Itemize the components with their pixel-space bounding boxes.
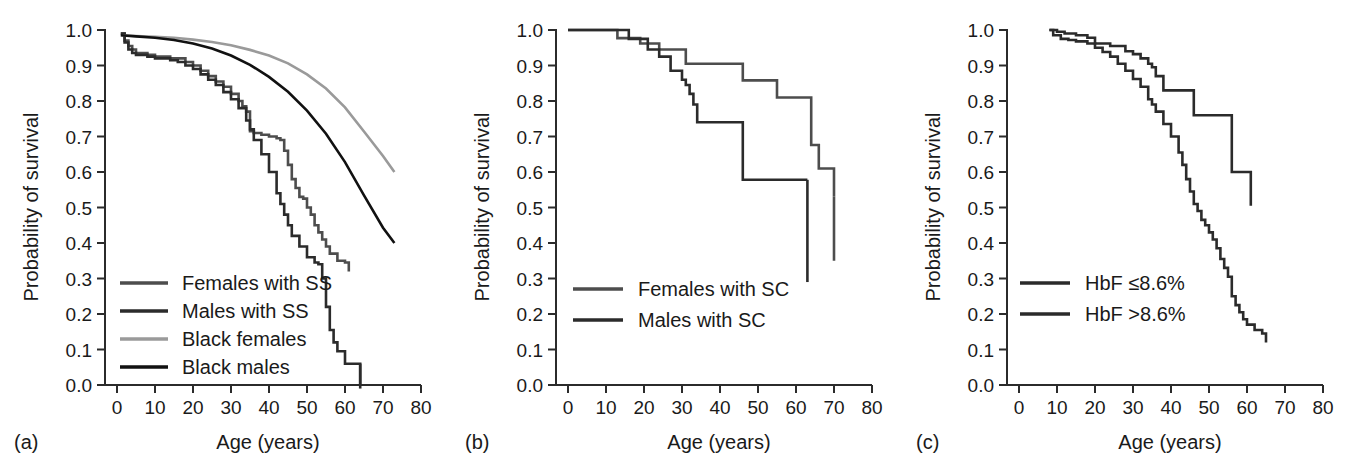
panel-a-plot: 0.0 0.1 0.2 0.3 0.4 0.5 0.6 0.7 0.8 0.9 …	[0, 0, 451, 475]
y-tick-label: 0.0	[66, 375, 92, 396]
panel-label-a: (a)	[14, 431, 38, 453]
legend-label-males-ss: Males with SS	[182, 300, 309, 322]
panel-c-plot: 0.0 0.1 0.2 0.3 0.4 0.5 0.6 0.7 0.8 0.9 …	[902, 0, 1354, 475]
y-tick-label: 0.0	[517, 375, 543, 396]
y-tick-label: 0.2	[968, 304, 994, 325]
y-axis-title: Probability of survival	[922, 113, 944, 302]
x-tick-label: 40	[709, 397, 730, 418]
y-tick-label: 0.5	[66, 198, 92, 219]
y-tick-label: 0.1	[66, 340, 92, 361]
panel-a: 0.0 0.1 0.2 0.3 0.4 0.5 0.6 0.7 0.8 0.9 …	[0, 0, 451, 475]
y-ticks	[999, 30, 1007, 385]
legend-label-males-sc: Males with SC	[638, 309, 766, 331]
y-tick-label: 0.6	[66, 162, 92, 183]
curve-males-with-sc	[568, 30, 807, 180]
y-ticks	[97, 30, 105, 385]
y-tick-label: 0.7	[66, 127, 92, 148]
x-tick-label: 10	[144, 397, 165, 418]
y-tick-label: 0.9	[517, 56, 543, 77]
y-tick-label: 0.4	[66, 233, 93, 254]
y-tick-label: 0.1	[968, 340, 994, 361]
y-tick-label: 0.7	[517, 127, 543, 148]
legend-label-females-sc: Females with SC	[638, 278, 789, 300]
x-tick-label: 60	[1236, 397, 1257, 418]
x-tick-label: 30	[220, 397, 241, 418]
y-tick-labels: 0.0 0.1 0.2 0.3 0.4 0.5 0.6 0.7 0.8 0.9 …	[968, 20, 995, 396]
x-tick-label: 70	[372, 397, 393, 418]
x-tick-label: 20	[633, 397, 654, 418]
y-tick-label: 0.4	[968, 233, 995, 254]
legend-label-black-females: Black females	[182, 328, 307, 350]
y-tick-label: 0.6	[517, 162, 543, 183]
y-tick-label: 0.8	[517, 91, 543, 112]
curve-females-with-ss	[121, 34, 349, 272]
x-tick-label: 0	[112, 397, 123, 418]
x-axis-title: Age (years)	[1118, 431, 1221, 453]
panel-b-curves	[568, 30, 834, 282]
x-tick-label: 10	[1046, 397, 1067, 418]
y-tick-label: 0.3	[66, 269, 92, 290]
y-ticks	[548, 30, 556, 385]
x-tick-labels: 0 10 20 30 40 50 60 70 80	[563, 397, 883, 418]
x-tick-label: 20	[182, 397, 203, 418]
curve-hbf-8-6	[1049, 30, 1250, 206]
y-tick-label: 0.8	[66, 91, 92, 112]
panel-b-plot: 0.0 0.1 0.2 0.3 0.4 0.5 0.6 0.7 0.8 0.9 …	[451, 0, 902, 475]
y-tick-label: 0.7	[968, 127, 994, 148]
x-tick-label: 70	[823, 397, 844, 418]
x-tick-label: 30	[1122, 397, 1143, 418]
x-tick-label: 80	[861, 397, 882, 418]
y-tick-label: 1.0	[968, 20, 994, 41]
x-tick-label: 70	[1274, 397, 1295, 418]
y-tick-label: 0.3	[517, 269, 543, 290]
x-tick-label: 80	[410, 397, 431, 418]
x-ticks	[568, 385, 872, 393]
panel-c-legend: HbF ≤8.6% HbF >8.6%	[1020, 272, 1186, 325]
x-tick-labels: 0 10 20 30 40 50 60 70 80	[1014, 397, 1334, 418]
panel-c: 0.0 0.1 0.2 0.3 0.4 0.5 0.6 0.7 0.8 0.9 …	[902, 0, 1353, 475]
panel-a-legend: Females with SS Males with SS Black fema…	[120, 272, 332, 378]
panel-b: 0.0 0.1 0.2 0.3 0.4 0.5 0.6 0.7 0.8 0.9 …	[451, 0, 902, 475]
y-axis-title: Probability of survival	[471, 113, 493, 302]
y-tick-label: 0.5	[968, 198, 994, 219]
x-tick-label: 50	[747, 397, 768, 418]
x-tick-label: 40	[258, 397, 279, 418]
x-tick-label: 80	[1312, 397, 1333, 418]
y-tick-label: 0.3	[968, 269, 994, 290]
x-tick-label: 40	[1160, 397, 1181, 418]
y-tick-labels: 0.0 0.1 0.2 0.3 0.4 0.5 0.6 0.7 0.8 0.9 …	[66, 20, 93, 396]
x-ticks	[1019, 385, 1323, 393]
y-tick-label: 0.2	[517, 304, 543, 325]
panel-label-c: (c)	[916, 431, 939, 453]
y-tick-label: 0.8	[968, 91, 994, 112]
y-tick-labels: 0.0 0.1 0.2 0.3 0.4 0.5 0.6 0.7 0.8 0.9 …	[517, 20, 544, 396]
y-tick-label: 0.0	[968, 375, 994, 396]
y-axis-title: Probability of survival	[20, 113, 42, 302]
y-tick-label: 0.1	[517, 340, 543, 361]
panel-c-curves	[1049, 30, 1266, 342]
x-tick-label: 50	[1198, 397, 1219, 418]
x-tick-label: 60	[785, 397, 806, 418]
x-axis-title: Age (years)	[216, 431, 319, 453]
legend-label-females-ss: Females with SS	[182, 272, 332, 294]
survival-curves-figure: 0.0 0.1 0.2 0.3 0.4 0.5 0.6 0.7 0.8 0.9 …	[0, 0, 1354, 475]
x-tick-label: 30	[671, 397, 692, 418]
panel-b-legend: Females with SC Males with SC	[573, 278, 789, 331]
x-tick-label: 60	[334, 397, 355, 418]
x-ticks	[117, 385, 421, 393]
y-tick-label: 0.4	[517, 233, 544, 254]
y-tick-label: 0.5	[517, 198, 543, 219]
curve-females-with-sc	[568, 30, 834, 197]
y-tick-label: 1.0	[517, 20, 543, 41]
legend-label-black-males: Black males	[182, 356, 290, 378]
panel-label-b: (b)	[465, 431, 489, 453]
y-tick-label: 1.0	[66, 20, 92, 41]
x-tick-label: 50	[296, 397, 317, 418]
x-axis-title: Age (years)	[667, 431, 770, 453]
legend-label-hbf-low: HbF ≤8.6%	[1085, 272, 1185, 294]
y-tick-label: 0.9	[66, 56, 92, 77]
x-tick-label: 20	[1084, 397, 1105, 418]
y-tick-label: 0.6	[968, 162, 994, 183]
y-tick-label: 0.9	[968, 56, 994, 77]
x-tick-label: 10	[595, 397, 616, 418]
